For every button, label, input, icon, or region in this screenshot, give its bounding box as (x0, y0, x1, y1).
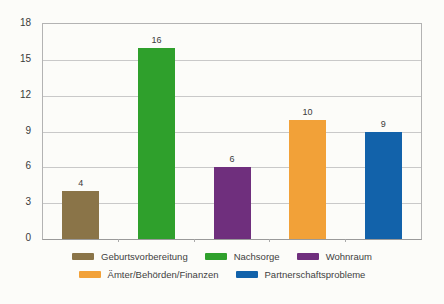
y-axis: 0369121518 (0, 0, 37, 250)
legend-swatch-icon (72, 253, 94, 260)
legend-label: Wohnraum (326, 250, 372, 263)
y-tick-label: 6 (25, 161, 31, 171)
bar-value-label: 9 (381, 119, 386, 129)
gridline (43, 60, 421, 61)
bar-ämter-behörden-finanzen (289, 120, 326, 239)
y-tick-label: 12 (20, 90, 31, 100)
bar-nachsorge (138, 48, 175, 239)
bar-value-label: 16 (151, 35, 161, 45)
legend-swatch-icon (236, 271, 258, 278)
legend-item: Partnerschaftsprobleme (236, 268, 366, 281)
legend: GeburtsvorbereitungNachsorgeWohnraumÄmte… (0, 250, 444, 281)
y-tick-label: 18 (20, 18, 31, 28)
x-axis-tick (345, 239, 346, 242)
bar-wohnraum (214, 167, 251, 239)
x-axis-tick (269, 239, 270, 242)
plot-area: 4166109 (42, 23, 422, 240)
bar-value-label: 6 (229, 154, 234, 164)
bar-value-label: 10 (303, 107, 313, 117)
y-tick-label: 15 (20, 54, 31, 64)
legend-item: Ämter/Behörden/Finanzen (79, 268, 219, 281)
legend-item: Nachsorge (205, 250, 280, 263)
bar-value-label: 4 (78, 178, 83, 188)
legend-item: Geburtsvorbereitung (72, 250, 188, 263)
legend-row: Ämter/Behörden/FinanzenPartnerschaftspro… (79, 268, 366, 281)
legend-label: Geburtsvorbereitung (101, 250, 188, 263)
chart-page: 0369121518 4166109 GeburtsvorbereitungNa… (0, 0, 444, 304)
y-tick-label: 3 (25, 197, 31, 207)
legend-row: GeburtsvorbereitungNachsorgeWohnraum (72, 250, 372, 263)
x-axis-tick (118, 239, 119, 242)
x-axis-tick (194, 239, 195, 242)
y-tick-label: 9 (25, 126, 31, 136)
legend-item: Wohnraum (297, 250, 372, 263)
bar-geburtsvorbereitung (62, 191, 99, 239)
legend-swatch-icon (205, 253, 227, 260)
legend-swatch-icon (297, 253, 319, 260)
bar-partnerschaftsprobleme (365, 132, 402, 240)
legend-swatch-icon (79, 271, 101, 278)
legend-label: Nachsorge (234, 250, 280, 263)
legend-label: Partnerschaftsprobleme (265, 268, 366, 281)
gridline (43, 96, 421, 97)
legend-label: Ämter/Behörden/Finanzen (108, 268, 219, 281)
y-tick-label: 0 (25, 233, 31, 243)
